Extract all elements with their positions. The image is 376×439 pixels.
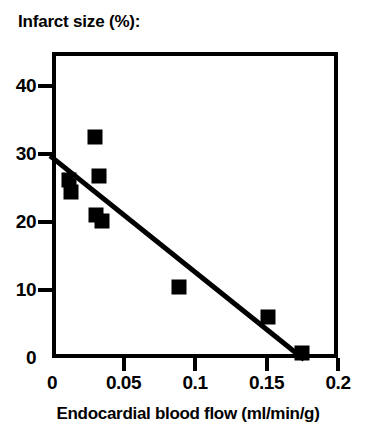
data-point-marker <box>92 169 107 184</box>
x-axis-tick <box>122 358 126 371</box>
data-point-marker <box>260 310 275 325</box>
y-axis-tick <box>38 220 52 224</box>
x-axis-tick-label: 0 <box>47 372 57 394</box>
chart-title: Infarct size (%): <box>18 12 140 32</box>
x-axis-tick-label: 0.05 <box>106 372 141 394</box>
y-axis-tick-label: 30 <box>0 143 36 165</box>
x-axis-tick <box>193 358 197 371</box>
y-axis-tick-label: 40 <box>0 75 36 97</box>
x-axis-tick-label: 0.2 <box>326 372 351 394</box>
data-point-marker <box>172 279 187 294</box>
plot-data-area <box>52 52 338 358</box>
data-point-marker <box>63 185 78 200</box>
x-axis-tick-label: 0.15 <box>249 372 284 394</box>
x-axis-tick <box>265 358 269 371</box>
data-point-marker <box>87 130 102 145</box>
regression-line <box>52 52 338 358</box>
y-axis-tick <box>38 84 52 88</box>
y-axis-tick-label: 20 <box>0 211 36 233</box>
x-axis-tick <box>336 358 340 371</box>
y-axis-tick <box>38 288 52 292</box>
x-axis-tick-label: 0.1 <box>183 372 208 394</box>
y-axis-tick-label: 0 <box>0 347 36 369</box>
x-axis-title: Endocardial blood flow (ml/min/g) <box>0 404 376 424</box>
data-point-marker <box>295 345 310 360</box>
data-point-marker <box>95 213 110 228</box>
scatter-plot-figure: Infarct size (%): 010203040 00.050.10.15… <box>0 0 376 439</box>
y-axis-tick-label: 10 <box>0 279 36 301</box>
y-axis-tick <box>38 152 52 156</box>
